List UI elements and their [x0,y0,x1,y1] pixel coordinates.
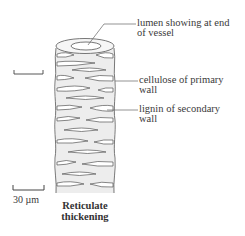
label-lignin-line2: wall [139,114,220,124]
label-cellulose: cellulose of primary wall [139,75,224,95]
scale-bar [14,70,43,74]
caption-line2: thickening [50,211,120,222]
scale-bar-icon [12,184,46,192]
label-cellulose-line2: wall [139,85,224,95]
label-lumen-line2: of vessel [137,28,229,38]
diagram-caption: Reticulate thickening [50,200,120,222]
scale-bar-label: 30 µm [13,194,39,205]
label-lignin: lignin of secondary wall [139,104,220,124]
caption-line1: Reticulate [50,200,120,211]
diagram-canvas: 30 µm lumen showing at end of vessel cel… [0,0,245,236]
label-lumen: lumen showing at end of vessel [137,18,229,38]
